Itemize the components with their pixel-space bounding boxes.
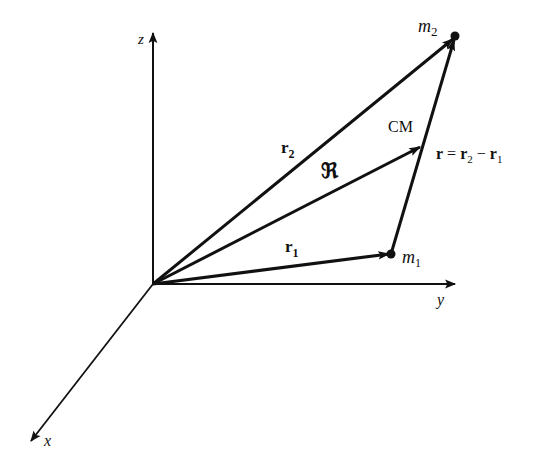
r2-label: r2 <box>281 138 295 161</box>
r-equation-label: r = r2 − r1 <box>436 145 502 165</box>
y-axis-label: y <box>435 291 445 309</box>
x-axis <box>31 284 153 441</box>
z-axis-label: z <box>137 31 144 47</box>
m2-label: m2 <box>418 16 438 39</box>
mass-m2-point <box>451 32 460 41</box>
mass-m1-point <box>387 250 396 259</box>
x-axis-label: x <box>43 432 51 449</box>
vector-R <box>153 147 420 284</box>
cm-label: CM <box>388 118 413 135</box>
r1-label: r1 <box>285 237 299 260</box>
R-label: ℜ <box>321 159 339 183</box>
two-body-diagram: z y x m2 m1 CM r2 ℜ r1 r = r2 − r1 <box>0 0 550 475</box>
vector-r1 <box>153 254 389 284</box>
m1-label: m1 <box>402 247 421 270</box>
